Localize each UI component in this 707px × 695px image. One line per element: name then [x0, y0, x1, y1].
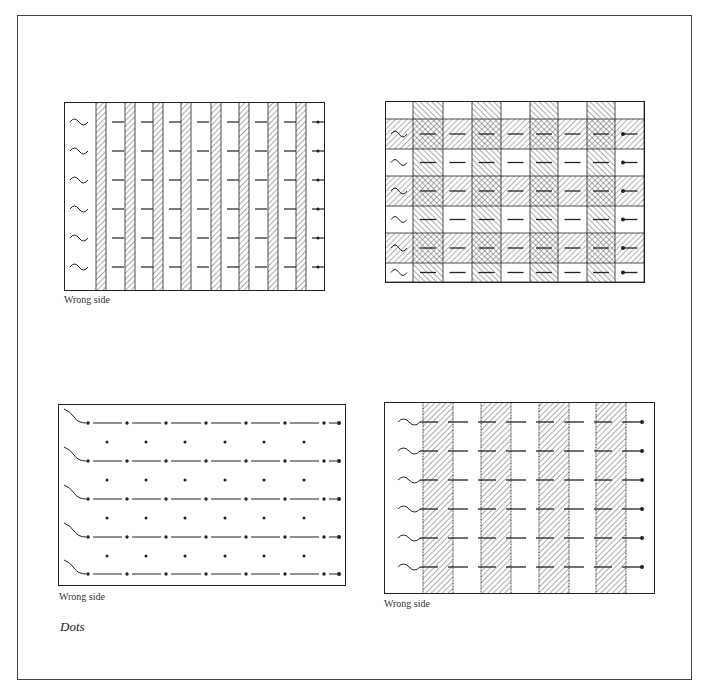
figure-3-caption: Wrong side	[59, 591, 105, 602]
figure-dots	[58, 404, 346, 586]
figure-1-caption: Wrong side	[64, 294, 110, 305]
section-title-dots: Dots	[60, 619, 85, 635]
plaid-diagram	[385, 101, 645, 283]
figure-narrow-stripes	[64, 102, 325, 291]
figure-wide-stripes	[384, 402, 655, 594]
figure-4-caption: Wrong side	[384, 598, 430, 609]
wide-stripes-diagram	[384, 402, 655, 594]
figure-plaid	[385, 101, 645, 283]
narrow-stripes-diagram	[64, 102, 325, 291]
dots-diagram	[58, 404, 346, 586]
